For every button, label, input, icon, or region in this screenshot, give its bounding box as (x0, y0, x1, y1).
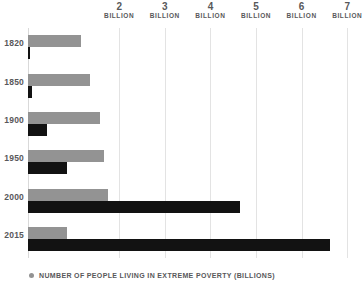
gridline (119, 28, 120, 258)
chart-legend: NUMBER OF PEOPLE LIVING IN EXTREME POVER… (29, 272, 275, 279)
gridline (165, 28, 166, 258)
x-axis-tick-value: 7 (317, 2, 363, 13)
bar-row (28, 112, 350, 136)
bar-poverty (28, 35, 81, 47)
y-axis-label: 1900 (0, 115, 24, 125)
bar-row (28, 189, 350, 213)
bar-poverty (28, 189, 108, 201)
bar-row (28, 74, 350, 98)
bar-row (28, 35, 350, 59)
x-axis-tick-unit: BILLION (317, 13, 363, 20)
bar-poverty (28, 150, 104, 162)
y-axis-label: 2015 (0, 230, 24, 240)
bar-row (28, 227, 350, 251)
y-axis-label: 1850 (0, 77, 24, 87)
gridline (302, 28, 303, 258)
bar-poverty (28, 74, 90, 86)
gridline (347, 28, 348, 258)
poverty-population-bar-chart: 2BILLION3BILLION4BILLION5BILLION6BILLION… (0, 0, 363, 292)
y-axis-label: 1820 (0, 38, 24, 48)
bar-row (28, 150, 350, 174)
y-axis-line (28, 28, 29, 258)
y-axis-label: 1950 (0, 153, 24, 163)
plot-area (28, 28, 350, 258)
legend-label-poverty: NUMBER OF PEOPLE LIVING IN EXTREME POVER… (39, 272, 275, 279)
bar-population (28, 124, 47, 136)
gridline (210, 28, 211, 258)
bar-poverty (28, 112, 100, 124)
x-axis-tick: 7BILLION (317, 2, 363, 19)
bar-population (28, 162, 67, 174)
gridline (256, 28, 257, 258)
bar-population (28, 86, 32, 98)
y-axis-category-labels: 182018501900195020002015 (0, 28, 28, 258)
y-axis-label: 2000 (0, 192, 24, 202)
bar-population (28, 201, 240, 213)
legend-swatch-poverty-icon (29, 273, 34, 278)
bar-population (28, 239, 330, 251)
bar-population (28, 47, 30, 59)
bar-poverty (28, 227, 67, 239)
x-axis-tick-labels: 2BILLION3BILLION4BILLION5BILLION6BILLION… (0, 0, 363, 28)
